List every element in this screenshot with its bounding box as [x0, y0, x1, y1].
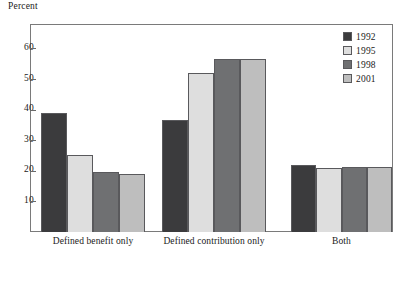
legend-item: 1995	[343, 44, 376, 57]
y-axis-tick-mark	[30, 110, 36, 111]
bar	[342, 167, 367, 232]
legend-item: 2001	[343, 72, 376, 85]
bar-group: Defined benefit only	[41, 24, 145, 232]
bar	[214, 59, 240, 232]
chart-page: Percent 102030405060 Defined benefit onl…	[0, 0, 414, 284]
y-axis-tick-label: 20	[12, 164, 34, 174]
legend-item-label: 1995	[356, 46, 376, 56]
bar-group-bars	[162, 24, 266, 232]
legend-swatch-icon	[343, 60, 352, 69]
legend-swatch-icon	[343, 32, 352, 41]
bar	[367, 167, 392, 232]
y-axis-tick-mark	[30, 140, 36, 141]
legend-item: 1992	[343, 30, 376, 43]
bar	[41, 113, 67, 232]
x-axis-category-label: Defined contribution only	[162, 236, 266, 246]
bar	[119, 174, 145, 232]
y-axis-tick-label: 50	[12, 73, 34, 83]
y-axis-tick-label: 60	[12, 42, 34, 52]
y-axis-tick-mark	[30, 79, 36, 80]
bar	[291, 165, 316, 232]
legend-item-label: 1998	[356, 60, 376, 70]
legend-swatch-icon	[343, 46, 352, 55]
bar	[162, 120, 188, 232]
bar	[240, 59, 266, 232]
y-axis-tick-label: 40	[12, 103, 34, 113]
chart-legend: 1992199519982001	[343, 30, 376, 85]
y-axis-tick-label: 30	[12, 134, 34, 144]
bar-group: Both	[291, 24, 392, 232]
legend-item-label: 2001	[356, 74, 376, 84]
legend-swatch-icon	[343, 74, 352, 83]
y-axis-tick-mark	[30, 171, 36, 172]
x-axis-category-label: Both	[291, 236, 392, 246]
bar	[316, 168, 341, 232]
legend-item: 1998	[343, 58, 376, 71]
y-axis-tick-mark	[30, 48, 36, 49]
y-axis-title: Percent	[8, 1, 38, 11]
bar	[67, 155, 93, 232]
bar-group-bars	[291, 24, 392, 232]
bar	[93, 172, 119, 232]
x-axis-category-label: Defined benefit only	[41, 236, 145, 246]
y-axis-tick-mark	[30, 201, 36, 202]
y-axis-tick-label: 10	[12, 195, 34, 205]
legend-item-label: 1992	[356, 32, 376, 42]
bar-group-bars	[41, 24, 145, 232]
bar	[188, 73, 214, 232]
bar-group: Defined contribution only	[162, 24, 266, 232]
